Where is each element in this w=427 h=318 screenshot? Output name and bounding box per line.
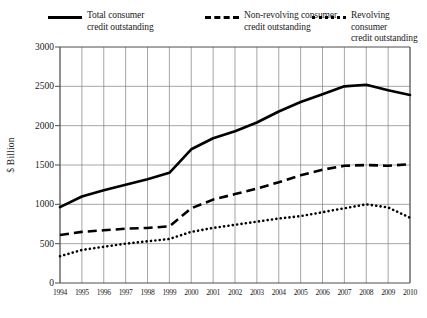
chart-figure: Total consumer credit outstanding Non-re… xyxy=(0,0,427,318)
x-tick-label: 2010 xyxy=(393,288,427,297)
x-axis-tick-labels: 1994199519961997199819992000200120022003… xyxy=(0,0,427,318)
